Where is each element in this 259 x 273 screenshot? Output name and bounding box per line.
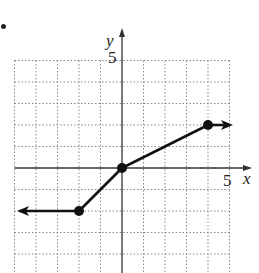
x-tick-label: 5 — [223, 172, 232, 189]
x-axis-label: x — [243, 170, 251, 187]
y-axis-label: y — [106, 32, 114, 49]
y-tick-label: 5 — [108, 49, 117, 66]
graph-canvas — [0, 0, 259, 273]
axes — [15, 28, 253, 273]
